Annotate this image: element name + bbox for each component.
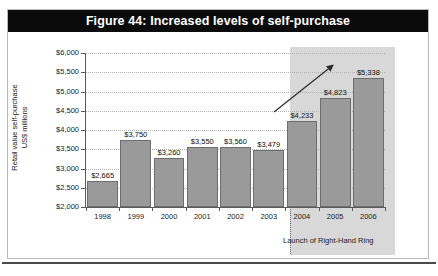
x-axis-tick xyxy=(319,207,320,211)
y-axis-tick-label: $2,500 xyxy=(35,183,79,192)
x-axis-tick xyxy=(219,207,220,211)
x-axis-tick-label: 2005 xyxy=(319,212,351,221)
y-axis-tick-label: $5,000 xyxy=(35,87,79,96)
x-axis-tick-label: 2003 xyxy=(253,212,285,221)
x-axis-tick-label: 1998 xyxy=(87,212,119,221)
bar-value-label: $3,750 xyxy=(120,130,152,139)
y-axis-line xyxy=(85,53,86,208)
gridline xyxy=(86,72,385,73)
bar-value-label: $3,560 xyxy=(220,137,252,146)
bar xyxy=(287,121,318,207)
x-axis-tick xyxy=(385,207,386,211)
y-axis-title: Retail value self-purchase US$ millions xyxy=(10,73,29,183)
y-axis-title-line1: Retail value self-purchase xyxy=(10,73,20,183)
y-axis-tick-label: $4,500 xyxy=(35,106,79,115)
x-axis-tick xyxy=(252,207,253,211)
launch-annotation-label: Launch of Right-Hand Ring xyxy=(283,236,373,245)
bar xyxy=(353,78,384,207)
bar xyxy=(120,140,151,207)
x-axis-tick xyxy=(152,207,153,211)
footer-rule xyxy=(2,262,436,264)
x-axis-tick-label: 2006 xyxy=(352,212,384,221)
bar xyxy=(87,181,118,207)
x-axis-tick xyxy=(86,207,87,211)
gridline xyxy=(86,53,385,54)
y-axis-tick-label: $3,000 xyxy=(35,164,79,173)
bar xyxy=(220,147,251,207)
figure-page: Figure 44: Increased levels of self-purc… xyxy=(0,0,438,276)
x-axis-tick xyxy=(186,207,187,211)
x-axis-tick xyxy=(119,207,120,211)
x-axis-tick xyxy=(352,207,353,211)
y-axis-title-line2: US$ millions xyxy=(19,73,29,183)
x-axis-line xyxy=(85,207,386,208)
bar-value-label: $5,338 xyxy=(352,68,384,77)
y-axis-tick-label: $2,000 xyxy=(35,202,79,211)
bar xyxy=(154,158,185,207)
bar-value-label: $2,665 xyxy=(87,171,119,180)
bar-value-label: $3,479 xyxy=(253,140,285,149)
y-axis-tick-label: $5,500 xyxy=(35,67,79,76)
bar-value-label: $3,260 xyxy=(153,148,185,157)
x-axis-tick-label: 2000 xyxy=(153,212,185,221)
bar xyxy=(253,150,284,207)
launch-divider-line xyxy=(290,207,291,254)
bar-value-label: $3,550 xyxy=(186,137,218,146)
y-axis-tick-label: $4,000 xyxy=(35,125,79,134)
y-axis-tick-label: $3,500 xyxy=(35,144,79,153)
bar xyxy=(187,147,218,207)
x-axis-tick-label: 1999 xyxy=(120,212,152,221)
bar-chart: Retail value self-purchase US$ millions … xyxy=(0,0,438,276)
y-axis-tick-label: $6,000 xyxy=(35,48,79,57)
x-axis-tick xyxy=(285,207,286,211)
x-axis-tick-label: 2001 xyxy=(186,212,218,221)
x-axis-tick-label: 2002 xyxy=(220,212,252,221)
growth-arrow-icon xyxy=(270,60,340,120)
